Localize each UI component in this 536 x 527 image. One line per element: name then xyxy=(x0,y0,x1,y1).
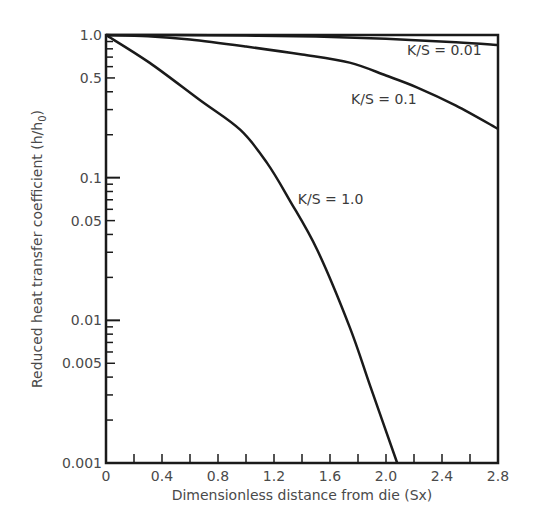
x-axis-title: Dimensionless distance from die (Sx) xyxy=(172,487,433,503)
x-tick-label: 0.4 xyxy=(151,468,173,484)
y-axis-title-close: ) xyxy=(29,110,45,115)
y-tick-label: 0.1 xyxy=(80,170,102,186)
tick-labels: 00.40.81.21.62.02.42.81.00.50.10.050.010… xyxy=(62,27,509,484)
curve-labels: K/S = 0.01K/S = 0.1K/S = 1.0 xyxy=(298,42,482,207)
data-curves xyxy=(106,35,498,463)
x-tick-label: 2.0 xyxy=(375,468,397,484)
y-tick-label: 0.5 xyxy=(80,70,102,86)
y-tick-label: 0.001 xyxy=(62,455,102,471)
y-tick-label: 0.01 xyxy=(71,312,102,328)
x-tick-label: 2.4 xyxy=(431,468,453,484)
x-tick-label: 2.8 xyxy=(487,468,509,484)
curve-label: K/S = 0.1 xyxy=(351,91,417,107)
x-tick-label: 0.8 xyxy=(207,468,229,484)
curve-label: K/S = 0.01 xyxy=(407,42,482,58)
y-tick-label: 0.005 xyxy=(62,355,102,371)
curve-label: K/S = 1.0 xyxy=(298,191,364,207)
x-tick-label: 0 xyxy=(102,468,111,484)
plot-frame xyxy=(106,35,498,463)
axis-ticks xyxy=(106,42,498,463)
y-axis-title-main: Reduced heat transfer coefficient (h/h xyxy=(29,122,45,388)
x-tick-label: 1.6 xyxy=(319,468,341,484)
y-tick-label: 1.0 xyxy=(80,27,102,43)
y-tick-label: 0.05 xyxy=(71,213,102,229)
chart: 00.40.81.21.62.02.42.81.00.50.10.050.010… xyxy=(0,0,536,527)
x-tick-label: 1.2 xyxy=(263,468,285,484)
y-axis-title: Reduced heat transfer coefficient (h/h0) xyxy=(29,110,48,388)
